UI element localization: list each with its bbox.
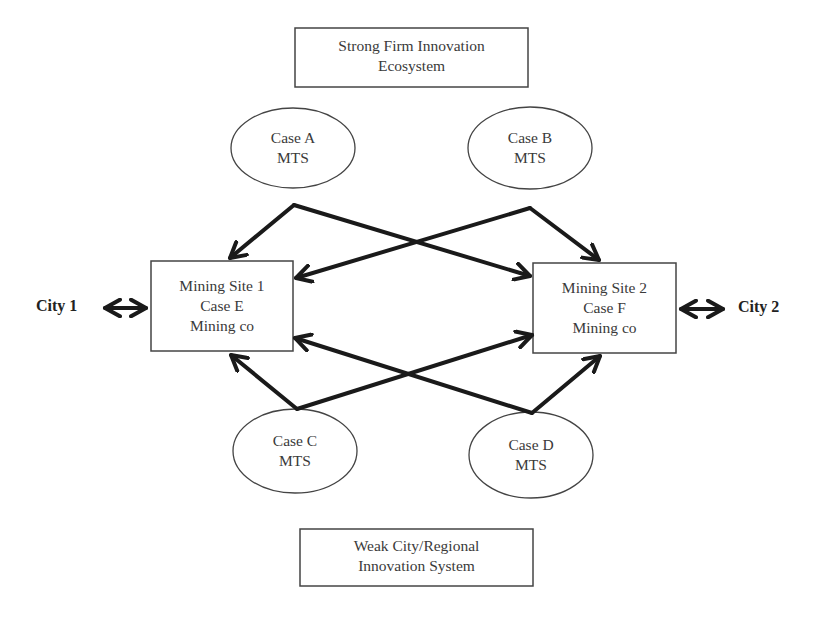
arrow-c-to-site2 [297, 335, 532, 409]
top-box-line2: Ecosystem [295, 56, 528, 76]
arrow-b-to-site2 [530, 208, 599, 260]
site2-line3: Mining co [533, 318, 676, 338]
arrow-c-to-site1 [231, 355, 297, 409]
bottom-box-label: Weak City/Regional Innovation System [300, 536, 533, 576]
top-box-label: Strong Firm Innovation Ecosystem [295, 36, 528, 76]
top-box-line1: Strong Firm Innovation [295, 36, 528, 56]
case-a-line1: Case A [231, 128, 355, 148]
mining-site-1-label: Mining Site 1 Case E Mining co [151, 276, 293, 336]
case-b-label: Case B MTS [468, 128, 592, 168]
arrow-d-to-site2 [532, 356, 600, 413]
case-c-line1: Case C [233, 431, 357, 451]
case-d-line2: MTS [469, 455, 593, 475]
case-b-line1: Case B [468, 128, 592, 148]
site1-line2: Case E [151, 296, 293, 316]
site2-line2: Case F [533, 298, 676, 318]
city-1-label: City 1 [36, 297, 77, 315]
arrow-d-to-site1 [295, 338, 532, 413]
case-a-line2: MTS [231, 148, 355, 168]
arrow-a-to-site2 [294, 205, 530, 276]
city-2-label: City 2 [738, 298, 779, 316]
case-a-label: Case A MTS [231, 128, 355, 168]
arrow-a-to-site1 [230, 205, 294, 258]
mining-site-2-label: Mining Site 2 Case F Mining co [533, 278, 676, 338]
site2-line1: Mining Site 2 [533, 278, 676, 298]
bottom-box-line1: Weak City/Regional [300, 536, 533, 556]
site1-line3: Mining co [151, 316, 293, 336]
case-b-line2: MTS [468, 148, 592, 168]
site1-line1: Mining Site 1 [151, 276, 293, 296]
case-d-label: Case D MTS [469, 435, 593, 475]
diagram-canvas [0, 0, 816, 623]
case-c-label: Case C MTS [233, 431, 357, 471]
bottom-box-line2: Innovation System [300, 556, 533, 576]
case-d-line1: Case D [469, 435, 593, 455]
case-c-line2: MTS [233, 451, 357, 471]
